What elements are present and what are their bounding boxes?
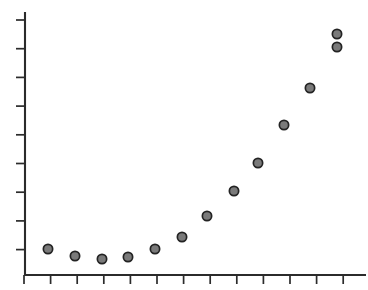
data-point-marker xyxy=(332,29,341,38)
data-point-marker xyxy=(97,254,106,263)
data-point-marker xyxy=(123,252,132,261)
data-point-marker xyxy=(279,120,288,129)
data-point-marker xyxy=(43,244,52,253)
plot-canvas xyxy=(0,0,368,290)
data-point-marker xyxy=(305,83,314,92)
scatter-plot-figure xyxy=(0,0,368,290)
data-point-marker xyxy=(177,232,186,241)
data-point-marker xyxy=(253,158,262,167)
data-point-marker xyxy=(332,42,341,51)
plot-background xyxy=(0,0,368,290)
data-point-marker xyxy=(150,244,159,253)
data-point-marker xyxy=(229,186,238,195)
data-point-marker xyxy=(70,251,79,260)
data-point-marker xyxy=(202,211,211,220)
